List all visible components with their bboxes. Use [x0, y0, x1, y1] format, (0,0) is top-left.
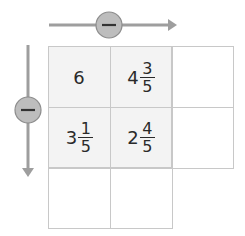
fraction: 1 5 — [78, 120, 93, 155]
grid-cell-r3c2-blank[interactable] — [110, 167, 173, 229]
whole-part: 2 — [127, 127, 138, 148]
grid-cell-r2c3-blank[interactable] — [171, 107, 234, 169]
vertical-minus-icon — [15, 97, 41, 123]
grid-cell-r2c2: 2 4 5 — [110, 107, 173, 169]
fraction: 3 5 — [140, 60, 155, 95]
grid-cell-r1c2: 4 3 5 — [110, 46, 173, 108]
denominator: 5 — [140, 78, 154, 95]
grid-cell-r1c1: 6 — [48, 46, 111, 108]
numerator: 3 — [140, 60, 154, 77]
cell-value: 6 — [73, 67, 84, 88]
numerator: 4 — [140, 120, 154, 137]
fraction: 4 5 — [140, 120, 155, 155]
mixed-number: 4 3 5 — [127, 60, 154, 95]
grid-cell-r1c3-blank[interactable] — [171, 46, 234, 108]
mixed-number: 2 4 5 — [127, 120, 154, 155]
grid-cell-r3c1-blank[interactable] — [48, 167, 111, 229]
whole-part: 4 — [127, 67, 138, 88]
whole-part: 3 — [66, 127, 77, 148]
numerator: 1 — [79, 120, 93, 137]
denominator: 5 — [79, 138, 93, 155]
denominator: 5 — [140, 138, 154, 155]
horizontal-minus-icon — [96, 12, 122, 38]
grid-cell-r2c1: 3 1 5 — [48, 107, 111, 169]
mixed-number: 3 1 5 — [66, 120, 93, 155]
